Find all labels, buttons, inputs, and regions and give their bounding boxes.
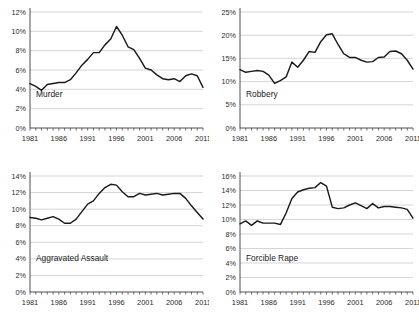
forcible-rape-y-tick-label: 8% [225,230,236,239]
aggravated-assault-y-tick-label: 14% [12,172,27,181]
murder-y-tick-label: 8% [16,46,27,55]
robbery-y-tick-label: 15% [221,54,236,63]
panel-aggravated-assault: 0%2%4%6%8%10%12%14% 19811986199119962001… [0,164,209,328]
murder-x-tick-label: 2006 [166,134,182,143]
forcible-rape-x-tick-labels: 1981198619911996200120062011 [231,298,418,307]
forcible-rape-x-tick-label: 2001 [347,298,363,307]
forcible-rape-y-tick-label: 2% [225,273,236,282]
forcible-rape-y-tick-label: 16% [221,172,236,181]
panel-forcible-rape: 0%2%4%6%8%10%12%14%16% 19811986199119962… [210,164,419,328]
robbery-x-tick-label: 1986 [260,134,276,143]
murder-x-tick-label: 1996 [108,134,124,143]
murder-y-tick-label: 10% [12,27,27,36]
robbery-y-tick-label: 5% [225,100,236,109]
murder-y-tick-label: 12% [12,8,27,17]
robbery-chart-svg: 0%5%10%15%20%25% 19811986199119962001200… [210,0,419,164]
aggravated-assault-data-line [30,184,203,223]
murder-series-label: Murder [36,89,63,99]
murder-y-tick-label: 0% [16,124,27,133]
murder-y-tick-label: 6% [16,66,27,75]
murder-x-tick-label: 2001 [137,134,153,143]
forcible-rape-y-tick-label: 12% [221,201,236,210]
forcible-rape-x-tick-label: 2006 [375,298,391,307]
chart-grid: 0%2%4%6%8%10%12% 19811986199119962001200… [0,0,419,328]
murder-y-tick-labels: 0%2%4%6%8%10%12% [12,8,27,133]
aggravated-assault-y-tick-label: 10% [12,205,27,214]
aggravated-assault-chart-svg: 0%2%4%6%8%10%12%14% 19811986199119962001… [0,164,209,328]
aggravated-assault-x-tick-label: 1981 [22,298,38,307]
forcible-rape-data-line [240,183,413,226]
robbery-x-tick-labels: 1981198619911996200120062011 [231,134,418,143]
aggravated-assault-x-tick-label: 2011 [195,298,209,307]
robbery-y-tick-label: 0% [225,124,236,133]
aggravated-assault-series-label: Aggravated Assault [36,253,109,263]
forcible-rape-y-tick-label: 14% [221,186,236,195]
forcible-rape-x-tick-label: 1991 [289,298,305,307]
panel-murder: 0%2%4%6%8%10%12% 19811986199119962001200… [0,0,209,164]
aggravated-assault-y-tick-label: 8% [16,221,27,230]
aggravated-assault-x-tick-label: 2006 [166,298,182,307]
robbery-x-tick-label: 1991 [289,134,305,143]
aggravated-assault-y-tick-label: 6% [16,238,27,247]
panel-robbery: 0%5%10%15%20%25% 19811986199119962001200… [210,0,419,164]
robbery-x-tick-label: 1981 [231,134,247,143]
aggravated-assault-y-tick-labels: 0%2%4%6%8%10%12%14% [12,172,27,297]
forcible-rape-y-tick-labels: 0%2%4%6%8%10%12%14%16% [221,172,236,297]
robbery-x-tick-label: 2006 [375,134,391,143]
aggravated-assault-x-tick-label: 1996 [108,298,124,307]
murder-y-tick-label: 4% [16,85,27,94]
robbery-y-tick-labels: 0%5%10%15%20%25% [221,8,236,133]
aggravated-assault-y-tick-label: 2% [16,271,27,280]
robbery-y-tick-label: 20% [221,31,236,40]
forcible-rape-y-tick-label: 4% [225,259,236,268]
forcible-rape-chart-svg: 0%2%4%6%8%10%12%14%16% 19811986199119962… [210,164,419,328]
robbery-x-tick-label: 1996 [318,134,334,143]
murder-chart-svg: 0%2%4%6%8%10%12% 19811986199119962001200… [0,0,209,164]
robbery-series-label: Robbery [246,89,278,99]
aggravated-assault-y-tick-label: 12% [12,188,27,197]
forcible-rape-x-tick-label: 1996 [318,298,334,307]
forcible-rape-y-tick-label: 10% [221,215,236,224]
aggravated-assault-x-tick-label: 1986 [51,298,67,307]
robbery-x-tick-label: 2011 [405,134,419,143]
robbery-y-tick-label: 10% [221,77,236,86]
robbery-x-tick-label: 2001 [347,134,363,143]
aggravated-assault-x-tick-label: 1991 [79,298,95,307]
murder-x-tick-label: 1991 [79,134,95,143]
forcible-rape-x-tick-label: 1981 [231,298,247,307]
robbery-y-tick-label: 25% [221,8,236,17]
murder-x-tick-label: 1981 [22,134,38,143]
aggravated-assault-y-tick-label: 0% [16,288,27,297]
aggravated-assault-x-tick-label: 2001 [137,298,153,307]
forcible-rape-x-tick-label: 1986 [260,298,276,307]
forcible-rape-x-tick-label: 2011 [405,298,419,307]
aggravated-assault-x-tick-labels: 1981198619911996200120062011 [22,298,209,307]
murder-x-tick-labels: 1981198619911996200120062011 [22,134,209,143]
murder-y-tick-label: 2% [16,104,27,113]
murder-x-tick-label: 1986 [51,134,67,143]
forcible-rape-series-label: Forcible Rape [246,253,298,263]
forcible-rape-y-tick-label: 0% [225,288,236,297]
forcible-rape-y-tick-label: 6% [225,244,236,253]
aggravated-assault-y-tick-label: 4% [16,254,27,263]
murder-x-tick-label: 2011 [195,134,209,143]
murder-data-line [30,27,203,91]
